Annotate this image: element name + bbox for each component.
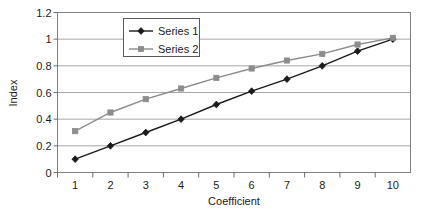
- data-point-marker: [143, 129, 149, 136]
- series-line: [75, 39, 393, 159]
- data-point-marker: [108, 110, 113, 115]
- y-tick-label: 0.2: [36, 140, 51, 152]
- y-tick-label: 0: [45, 167, 51, 179]
- data-point-marker: [390, 35, 395, 40]
- data-point-marker: [248, 88, 254, 95]
- data-point-marker: [355, 42, 360, 47]
- y-tick-label: 0.8: [36, 60, 51, 72]
- x-tick-label: 1: [72, 179, 78, 191]
- legend[interactable]: Series 1Series 2: [124, 19, 200, 57]
- x-tick-label: 8: [319, 179, 325, 191]
- y-tick-label: 0.6: [36, 87, 51, 99]
- data-point-marker: [178, 116, 184, 123]
- data-point-marker: [319, 62, 325, 69]
- series-line: [75, 38, 393, 131]
- y-axis-title: Index: [7, 79, 19, 106]
- y-axis-tick-labels: 00.20.40.60.811.2: [36, 7, 57, 179]
- x-tick-label: 9: [354, 179, 360, 191]
- data-point-marker: [249, 66, 254, 71]
- x-tick-label: 4: [178, 179, 184, 191]
- data-point-marker: [107, 142, 113, 149]
- series-series-1: [72, 36, 396, 163]
- x-tick-label: 6: [249, 179, 255, 191]
- gridlines: [58, 13, 411, 146]
- data-point-marker: [178, 86, 183, 91]
- legend-label: Series 1: [158, 25, 198, 37]
- data-point-marker: [213, 101, 219, 108]
- y-tick-label: 1: [45, 33, 51, 45]
- data-point-marker: [72, 156, 78, 163]
- data-point-marker: [138, 46, 143, 51]
- line-chart-canvas: 00.20.40.60.811.2 12345678910 Coefficien…: [0, 0, 430, 213]
- x-tick-label: 2: [107, 179, 113, 191]
- x-axis-title: Coefficient: [208, 195, 260, 207]
- data-point-marker: [320, 51, 325, 56]
- x-tick-label: 7: [284, 179, 290, 191]
- data-point-marker: [143, 97, 148, 102]
- x-axis-tick-labels: 12345678910: [72, 179, 399, 191]
- x-tick-label: 5: [213, 179, 219, 191]
- data-point-marker: [284, 76, 290, 83]
- data-point-marker: [284, 58, 289, 63]
- data-point-marker: [73, 129, 78, 134]
- chart-figure: 00.20.40.60.811.2 12345678910 Coefficien…: [0, 0, 430, 213]
- data-point-marker: [214, 75, 219, 80]
- legend-label: Series 2: [158, 43, 198, 55]
- y-tick-label: 0.4: [36, 113, 51, 125]
- x-tick-label: 3: [143, 179, 149, 191]
- series-layer: [72, 35, 396, 162]
- x-tick-label: 10: [387, 179, 399, 191]
- x-axis-ticks: [58, 173, 376, 178]
- y-tick-label: 1.2: [36, 7, 51, 19]
- data-point-marker: [354, 48, 360, 55]
